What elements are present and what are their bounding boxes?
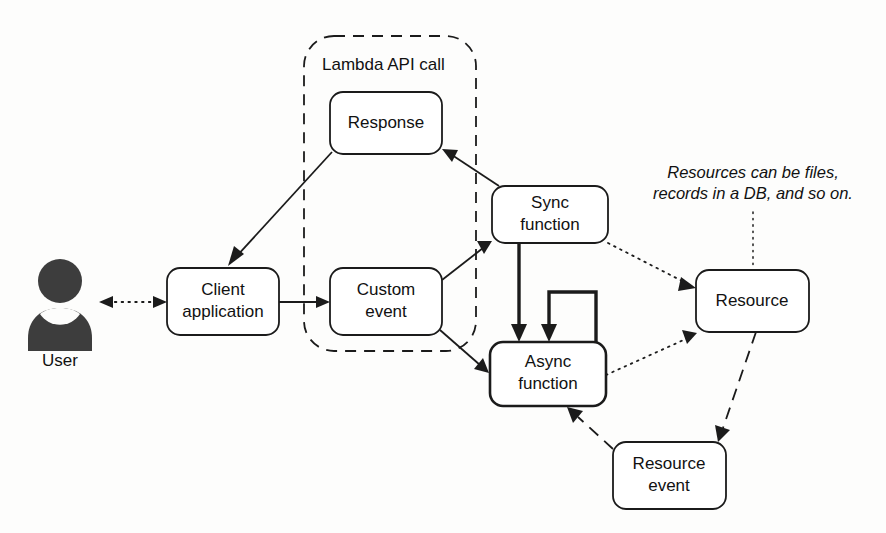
arrowhead-resource-event-async bbox=[567, 407, 583, 423]
edge-sync-function-to-resource bbox=[608, 243, 696, 291]
node-sync-function[interactable]: Sync function bbox=[492, 186, 608, 243]
arrowhead-response-client bbox=[228, 246, 244, 266]
resource-label-line1: Resource bbox=[716, 291, 789, 310]
edge-resource-to-resource-event bbox=[715, 332, 756, 442]
user-actor-label: User bbox=[42, 351, 78, 370]
edge-custom-event-to-sync-function bbox=[442, 241, 492, 280]
arrowhead-async-resource bbox=[682, 330, 697, 344]
arrowhead-to-user bbox=[99, 296, 113, 308]
client-application-label-line1: Client bbox=[201, 280, 245, 299]
custom-event-label-line2: event bbox=[365, 302, 407, 321]
arrowhead-custom-event-async bbox=[474, 358, 489, 373]
edge-sync-function-to-async-function bbox=[511, 243, 527, 342]
edge-user-client-application bbox=[99, 296, 167, 308]
arrowhead-to-client-application bbox=[153, 296, 167, 308]
sync-function-label-line1: Sync bbox=[531, 193, 569, 212]
node-client-application[interactable]: Client application bbox=[167, 268, 279, 335]
lambda-api-call-label: Lambda API call bbox=[322, 55, 445, 74]
diagram-canvas: Lambda API call User Client application … bbox=[0, 0, 886, 533]
arrowhead-resource-resource-event bbox=[715, 425, 730, 442]
person-icon bbox=[28, 259, 92, 351]
node-response[interactable]: Response bbox=[330, 92, 442, 154]
edge-resource-event-to-async-function bbox=[567, 407, 613, 449]
resource-event-label-line2: event bbox=[648, 476, 690, 495]
node-async-function[interactable]: Async function bbox=[490, 342, 606, 406]
arrowhead-async-self-loop bbox=[541, 324, 557, 342]
node-resource-event[interactable]: Resource event bbox=[613, 442, 726, 509]
edge-response-to-client-application bbox=[228, 152, 332, 266]
edge-async-function-to-resource bbox=[606, 330, 697, 375]
node-resource[interactable]: Resource bbox=[696, 270, 809, 332]
node-custom-event[interactable]: Custom event bbox=[330, 268, 442, 335]
arrowhead-client-custom-event bbox=[316, 296, 330, 308]
custom-event-label-line1: Custom bbox=[357, 280, 416, 299]
async-function-label-line1: Async bbox=[525, 352, 572, 371]
async-function-label-line2: function bbox=[518, 374, 578, 393]
response-label-line1: Response bbox=[348, 113, 425, 132]
client-application-label-line2: application bbox=[182, 302, 263, 321]
arrowhead-sync-response bbox=[442, 149, 458, 162]
arrowhead-sync-resource bbox=[678, 277, 696, 291]
resources-annotation-line1: Resources can be files, bbox=[667, 163, 839, 181]
edge-async-function-self-loop bbox=[541, 292, 596, 342]
arrowhead-sync-async bbox=[511, 324, 527, 342]
resource-event-label-line1: Resource bbox=[633, 454, 706, 473]
user-actor: User bbox=[28, 259, 92, 370]
resources-annotation: Resources can be files, records in a DB,… bbox=[653, 163, 853, 268]
edge-sync-function-to-response bbox=[442, 149, 499, 186]
resources-annotation-line2: records in a DB, and so on. bbox=[653, 184, 853, 202]
sync-function-label-line2: function bbox=[520, 215, 580, 234]
